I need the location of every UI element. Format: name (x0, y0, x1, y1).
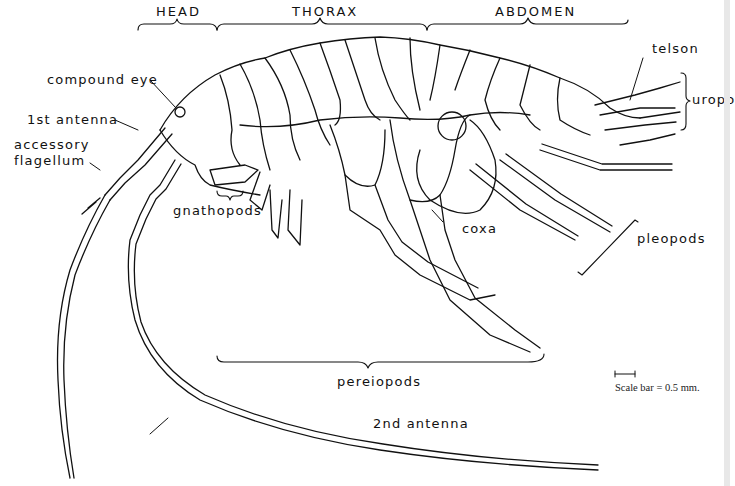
label-thorax: THORAX (292, 5, 358, 18)
label-compound-eye: compound eye (47, 73, 158, 86)
pereiopods-brace (217, 354, 544, 368)
label-telson: telson (652, 42, 699, 55)
label-pereiopods: pereiopods (337, 375, 421, 388)
label-pleopods: pleopods (637, 232, 706, 245)
pleopods-shape (470, 144, 672, 240)
label-coxa: coxa (462, 222, 497, 235)
body-outline (160, 37, 640, 213)
label-head: HEAD (156, 5, 201, 18)
first-antenna (58, 128, 173, 478)
scale-bar-caption: Scale bar = 0.5 mm. (615, 383, 700, 394)
uropods-shape (595, 82, 680, 145)
label-first-antenna: 1st antenna (27, 113, 118, 126)
page-edge (724, 0, 730, 486)
region-braces (138, 18, 628, 30)
uropods-brace (681, 73, 690, 130)
label-flagellum: flagellum (14, 154, 85, 167)
label-gnathopods: gnathopods (173, 204, 262, 217)
label-abdomen: ABDOMEN (495, 5, 576, 18)
gnathopods-brace (217, 191, 243, 200)
label-second-antenna: 2nd antenna (373, 417, 469, 430)
compound-eye-shape (175, 107, 185, 117)
pereiopods-shape (345, 175, 540, 352)
scale-bar (615, 371, 635, 377)
label-accessory: accessory (14, 138, 90, 151)
pleopods-bracket (578, 220, 638, 275)
